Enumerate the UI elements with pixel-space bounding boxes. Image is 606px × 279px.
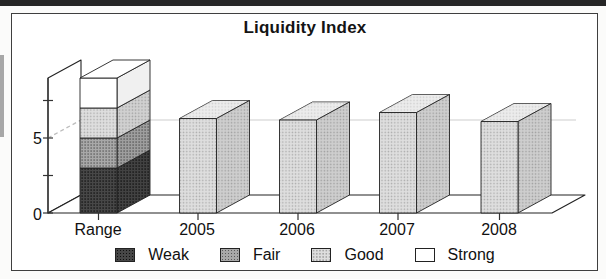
y-axis-label-0: 0 [18,206,42,224]
x-axis-label-2006: 2006 [261,221,333,239]
legend-label-good: Good [344,246,383,264]
legend-swatch-fair [220,248,240,262]
legend-item-good: Good [311,246,383,264]
bar-2007 [380,113,417,214]
legend-swatch-strong [415,248,435,262]
left-wall [48,60,81,213]
x-axis-label-2007: 2007 [361,221,433,239]
legend: Weak Fair Good Strong [11,246,599,264]
bar-2008 [481,122,518,214]
y-axis-label-5: 5 [18,130,42,148]
scanned-chart-page: Liquidity Index 0 5 Range 2005 2006 2007… [0,0,606,279]
range-bar-segment-good [80,108,117,138]
bar-2005 [180,119,217,214]
legend-label-fair: Fair [253,246,281,264]
chart-title: Liquidity Index [11,18,599,38]
range-bar-segment-strong [80,78,117,108]
x-axis-label-2008: 2008 [463,221,535,239]
legend-item-weak: Weak [115,246,189,264]
range-bar-segment-weak [80,168,117,213]
x-axis-label-2005: 2005 [161,221,233,239]
legend-label-strong: Strong [448,246,495,264]
legend-swatch-weak [115,248,135,262]
bar-2006 [280,120,317,213]
legend-item-strong: Strong [415,246,495,264]
legend-item-fair: Fair [220,246,281,264]
legend-label-weak: Weak [148,246,189,264]
range-bar-segment-fair [80,138,117,168]
x-axis-label-range: Range [62,221,134,239]
legend-swatch-good [311,248,331,262]
